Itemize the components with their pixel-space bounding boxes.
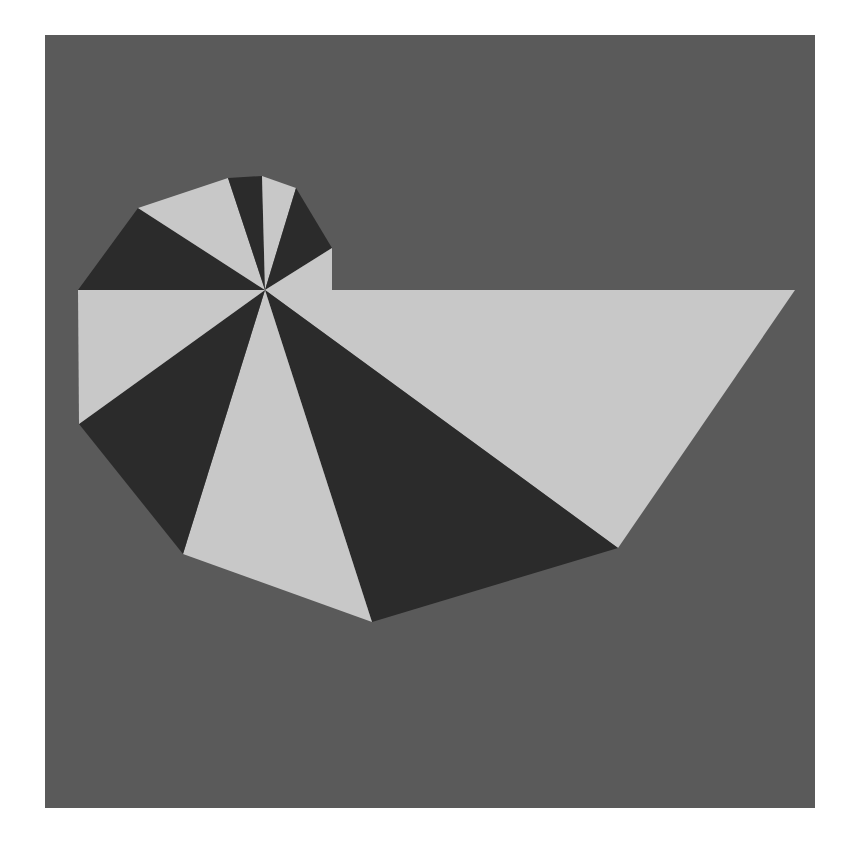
pinwheel-chart — [45, 35, 815, 808]
plot-canvas — [45, 35, 815, 808]
figure-root — [0, 0, 855, 844]
